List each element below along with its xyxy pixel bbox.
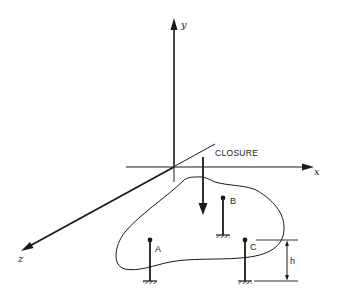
column-c-top-node bbox=[243, 238, 248, 243]
z-axis-arrow-icon bbox=[21, 242, 34, 251]
slab-outline bbox=[116, 177, 284, 270]
column-a: A bbox=[143, 238, 161, 284]
y-axis-arrow-icon bbox=[171, 18, 178, 30]
down-arrow-icon bbox=[199, 203, 208, 215]
load-arrow bbox=[199, 157, 208, 215]
column-b-label: B bbox=[230, 196, 236, 206]
x-axis: x bbox=[126, 164, 320, 178]
column-c: C bbox=[238, 238, 257, 284]
closure-label: CLOSURE bbox=[215, 148, 258, 158]
dimension-down-arrow-icon bbox=[285, 275, 289, 281]
y-axis: y bbox=[171, 18, 188, 167]
dimension-up-arrow-icon bbox=[285, 241, 289, 247]
column-b: B bbox=[216, 196, 236, 238]
column-a-top-node bbox=[148, 238, 153, 243]
closure-annotation: CLOSURE bbox=[175, 144, 258, 166]
x-axis-label: x bbox=[314, 166, 320, 177]
column-c-label: C bbox=[250, 242, 257, 252]
column-b-top-node bbox=[221, 196, 226, 201]
y-axis-label: y bbox=[180, 19, 187, 30]
structure-diagram: y x z CLOSURE B A bbox=[0, 0, 338, 301]
z-axis-label: z bbox=[17, 253, 24, 264]
x-axis-arrow-icon bbox=[302, 164, 314, 171]
dimension-h-label: h bbox=[290, 256, 295, 266]
column-a-label: A bbox=[155, 244, 161, 254]
